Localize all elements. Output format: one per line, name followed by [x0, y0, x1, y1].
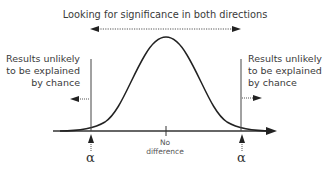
right-region-arrow [242, 95, 262, 101]
left-note-line-3: by chance [0, 77, 80, 89]
left-alpha-symbol: α [86, 150, 95, 165]
bell-curve [60, 37, 272, 131]
right-note-line-1: Results unlikely [248, 53, 322, 65]
right-note-line-2: to be explained [248, 65, 322, 77]
left-note-line-2: to be explained [0, 65, 80, 77]
left-region-arrow [70, 96, 90, 102]
right-note-line-3: by chance [248, 77, 322, 89]
no-difference-label: No difference [135, 138, 195, 156]
left-region-label: Results unlikely to be explained by chan… [0, 53, 80, 89]
both-directions-arrow [90, 26, 241, 32]
diagram-title: Looking for significance in both directi… [0, 9, 330, 21]
right-region-label: Results unlikely to be explained by chan… [248, 53, 322, 89]
center-label-line-2: difference [135, 147, 195, 156]
left-note-line-1: Results unlikely [0, 53, 80, 65]
right-alpha-symbol: α [237, 150, 246, 165]
center-label-line-1: No [135, 138, 195, 147]
